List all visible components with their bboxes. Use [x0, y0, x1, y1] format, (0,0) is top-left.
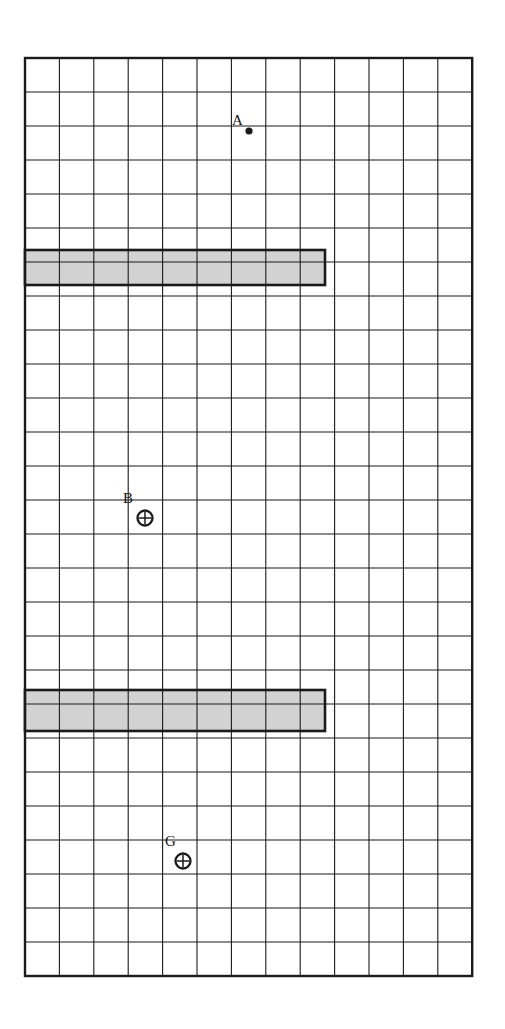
grid-background [25, 58, 472, 976]
point-g-label: G [165, 834, 176, 849]
upper-shaded-bar-fill [25, 250, 325, 285]
point-a-label: A [232, 113, 243, 128]
point-g[interactable] [176, 854, 191, 869]
point-b[interactable] [138, 511, 153, 526]
point-b-label: B [123, 491, 133, 506]
lower-shaded-bar-fill [25, 690, 325, 731]
grid-canvas [0, 0, 505, 1029]
point-a[interactable] [245, 127, 252, 134]
lower-shaded-bar [25, 690, 325, 731]
grid-figure: ABG [0, 0, 505, 1029]
point-a-dot-icon [245, 127, 252, 134]
upper-shaded-bar [25, 250, 325, 285]
